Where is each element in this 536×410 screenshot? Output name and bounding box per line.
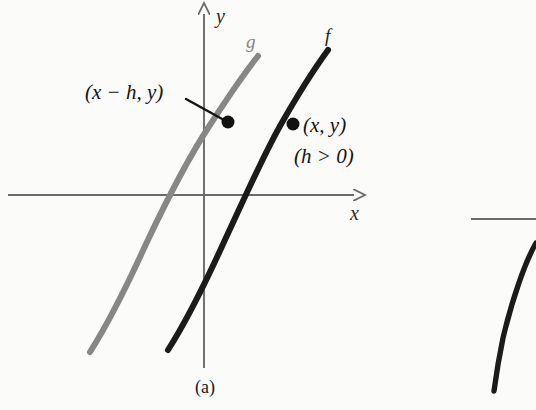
annotation-h-greater-than-zero: (h > 0) [294,146,354,167]
point-label-x-y: (x, y) [303,115,346,136]
adjacent-figure-curve [494,243,536,391]
curve-label-f: f [325,26,330,45]
figure-panel-a: y x g f (x − h, y) (x, y) (h > 0) (a) [0,0,536,410]
figure-caption: (a) [195,377,215,398]
x-axis-label: x [350,203,359,223]
point-marker-f [287,118,300,131]
curve-f [168,50,328,350]
figure-graphic [0,0,536,410]
point-label-x-minus-h-y: (x − h, y) [85,82,163,103]
point-marker-g [222,116,235,129]
y-axis-label: y [216,6,225,26]
curve-label-g: g [246,32,256,51]
